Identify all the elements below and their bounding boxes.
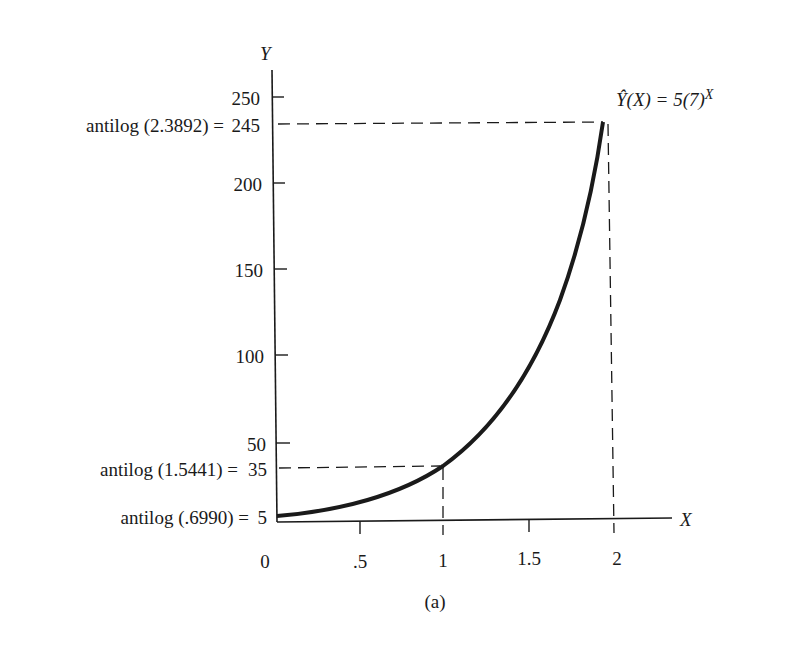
equation-main: Ŷ(X) = 5(7) <box>616 89 705 110</box>
figure-caption: (a) <box>410 592 460 611</box>
x-tick-label-0: 0 <box>250 552 280 571</box>
dashed-guides <box>278 122 614 535</box>
annotation-35-text: antilog (1.5441) = <box>10 460 238 479</box>
y-tick-label-200: 200 <box>220 175 262 194</box>
equation-label: Ŷ(X) = 5(7)X <box>616 88 713 109</box>
annotation-5-value: 5 <box>240 508 267 527</box>
x-tick-label-1.5: 1.5 <box>504 549 554 568</box>
annotation-35-value: 35 <box>230 460 267 479</box>
annotation-245-text: antilog (2.3892) = <box>10 116 224 135</box>
y-tick-label-50: 50 <box>224 435 266 454</box>
y-tick-label-150: 150 <box>221 261 263 280</box>
annotation-245-value: 245 <box>218 116 260 135</box>
equation-exponent: X <box>705 87 714 102</box>
x-tick-label-2: 2 <box>602 549 632 568</box>
y-axis-title: Y <box>260 44 271 63</box>
x-axis-title: X <box>680 510 692 529</box>
annotation-5-text: antilog (.6990) = <box>10 508 249 527</box>
exponential-curve <box>277 122 603 516</box>
y-axis-line <box>272 70 277 522</box>
y-tick-label-100: 100 <box>222 347 264 366</box>
x-tick-label-0.5: .5 <box>340 552 380 571</box>
x-tick-label-1: 1 <box>428 551 458 570</box>
y-tick-label-250: 250 <box>218 89 260 108</box>
x-axis-line <box>277 518 672 522</box>
